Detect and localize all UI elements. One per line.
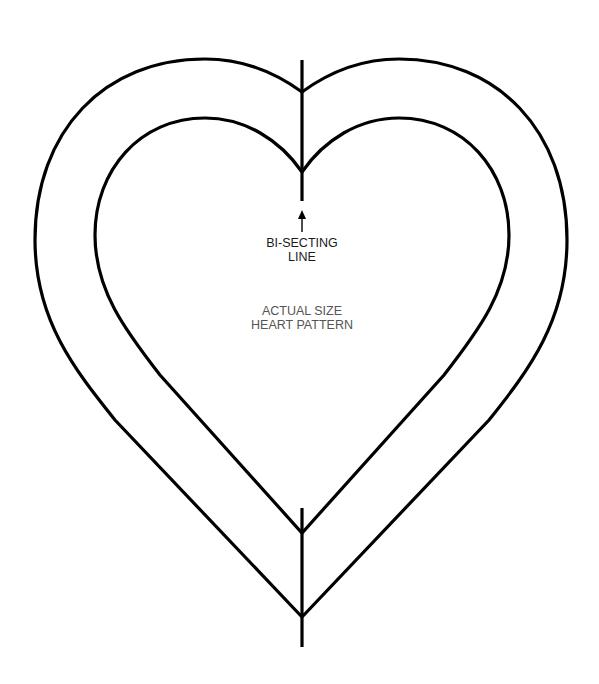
heart-pattern-drawing <box>0 0 599 684</box>
bisecting-line-label: BI-SECTING LINE <box>0 236 599 264</box>
bisecting-label-line1: BI-SECTING <box>0 236 599 250</box>
bisecting-label-line2: LINE <box>0 250 599 264</box>
arrow-up-icon <box>298 210 306 232</box>
pattern-title: ACTUAL SIZE HEART PATTERN <box>0 304 599 332</box>
pattern-title-line2: HEART PATTERN <box>0 318 599 332</box>
pattern-title-line1: ACTUAL SIZE <box>0 304 599 318</box>
